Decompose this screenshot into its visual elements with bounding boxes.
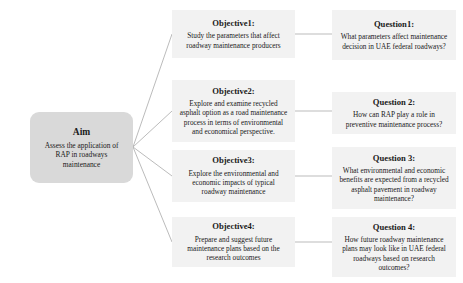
objective-node-1: Objective1: Study the parameters that af… (172, 10, 295, 58)
objective-body-2: Explore and examine recycled asphalt opt… (176, 99, 291, 136)
objective-node-3: Objective3: Explore the environmental an… (172, 150, 295, 202)
objective-title-1: Objective1: (212, 18, 254, 29)
objective-body-3: Explore the environmental and economic i… (176, 169, 291, 197)
question-title-2: Question 2: (373, 97, 415, 108)
objective-body-4: Prepare and suggest future maintenance p… (176, 235, 291, 263)
objective-node-2: Objective2: Explore and examine recycled… (172, 80, 295, 142)
research-framework-diagram: Aim Assess the application of RAP in roa… (0, 0, 463, 283)
question-body-1: What parameters affect maintenance decis… (336, 32, 452, 51)
objective-title-2: Objective2: (212, 86, 254, 97)
aim-node: Aim Assess the application of RAP in roa… (30, 112, 133, 183)
objective-node-4: Objective4: Prepare and suggest future m… (172, 217, 295, 267)
question-title-3: Question 3: (373, 153, 415, 164)
question-node-1: Question1: What parameters affect mainte… (332, 10, 456, 60)
question-node-4: Question 4: How future roadway maintenan… (332, 217, 456, 277)
objective-title-4: Objective4: (212, 221, 254, 232)
objective-title-3: Objective3: (212, 155, 254, 166)
question-body-3: What environmental and economic benefits… (336, 166, 452, 203)
aim-body: Assess the application of RAP in roadway… (34, 141, 129, 169)
question-body-4: How future roadway maintenance plans may… (336, 235, 452, 272)
question-body-2: How can RAP play a role in preventive ma… (336, 110, 452, 129)
objective-body-1: Study the parameters that affect roadway… (176, 31, 291, 50)
question-title-4: Question 4: (373, 222, 415, 233)
question-node-2: Question 2: How can RAP play a role in p… (332, 92, 456, 134)
question-node-3: Question 3: What environmental and econo… (332, 147, 456, 209)
connector-aim-to-objective-1 (133, 34, 172, 147)
question-title-1: Question1: (374, 19, 414, 30)
aim-title: Aim (73, 126, 90, 138)
